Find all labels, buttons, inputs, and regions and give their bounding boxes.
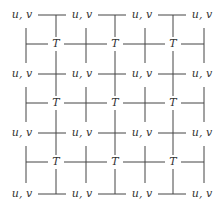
t-node-label: T: [52, 96, 61, 109]
t-node-label: T: [111, 155, 120, 168]
t-node-label: T: [52, 37, 61, 50]
t-node-label: T: [169, 37, 178, 50]
uv-node-label: u, v: [12, 67, 33, 80]
t-node-label: T: [111, 96, 120, 109]
uv-node-label: u, v: [132, 67, 153, 80]
uv-node-label: u, v: [72, 67, 93, 80]
uv-node-label: u, v: [132, 126, 153, 139]
staggered-grid-diagram: u, vu, vu, vu, vu, vu, vu, vu, vu, vu, v…: [0, 0, 219, 212]
uv-node-label: u, v: [192, 67, 213, 80]
uv-node-label: u, v: [72, 187, 93, 200]
uv-node-label: u, v: [132, 187, 153, 200]
t-node-label: T: [111, 37, 120, 50]
uv-node-label: u, v: [12, 126, 33, 139]
uv-node-label: u, v: [192, 187, 213, 200]
t-node-label: T: [52, 155, 61, 168]
t-node-label: T: [169, 155, 178, 168]
uv-node-label: u, v: [132, 8, 153, 21]
uv-node-label: u, v: [192, 8, 213, 21]
uv-node-label: u, v: [192, 126, 213, 139]
uv-node-label: u, v: [72, 126, 93, 139]
uv-node-label: u, v: [12, 8, 33, 21]
uv-node-label: u, v: [72, 8, 93, 21]
t-node-label: T: [169, 96, 178, 109]
uv-node-label: u, v: [12, 187, 33, 200]
